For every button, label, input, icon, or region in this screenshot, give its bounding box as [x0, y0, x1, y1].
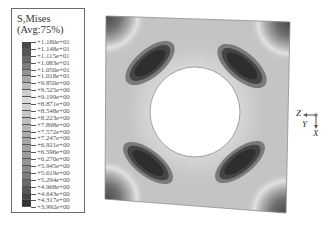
- stress-contour-plot: [95, 5, 300, 223]
- legend-color-segment: [22, 56, 31, 63]
- axis-label-y: Y: [302, 119, 307, 129]
- legend-tick-mark: [31, 159, 36, 160]
- legend-tick-mark: [31, 152, 36, 153]
- legend-color-segment: [22, 125, 31, 132]
- axis-label-x: X: [313, 128, 319, 138]
- legend-tick-mark: [31, 90, 36, 91]
- legend-tick-mark: [31, 83, 36, 84]
- legend-tick-mark: [31, 56, 36, 57]
- central-hole: [150, 67, 240, 157]
- axis-triad: Z Y X: [296, 104, 330, 140]
- legend-tick-mark: [31, 42, 36, 43]
- legend-color-segment: [22, 152, 31, 159]
- legend-tick-mark: [31, 118, 36, 119]
- plate: [95, 5, 300, 223]
- legend-tick-mark: [31, 104, 36, 105]
- legend-color-segment: [22, 166, 31, 173]
- legend-color-segment: [22, 159, 31, 166]
- legend-tick-mark: [31, 76, 36, 77]
- legend-color-segment: [22, 49, 31, 56]
- legend-color-segment: [22, 97, 31, 104]
- legend-color-segment: [22, 180, 31, 187]
- legend-color-segment: [22, 194, 31, 201]
- legend-tick-mark: [31, 180, 36, 181]
- legend-tick-mark: [31, 145, 36, 146]
- legend-color-segment: [22, 90, 31, 97]
- legend-averaging: (Avg:75%): [17, 24, 63, 35]
- legend-color-bar: [22, 42, 31, 207]
- legend-color-segment: [22, 83, 31, 90]
- legend-color-segment: [22, 145, 31, 152]
- legend-tick-mark: [31, 63, 36, 64]
- model-viewport[interactable]: [95, 5, 300, 223]
- legend-tick-mark: [31, 132, 36, 133]
- legend-color-segment: [22, 138, 31, 145]
- legend-tick-mark: [31, 173, 36, 174]
- legend-color-segment: [22, 118, 31, 125]
- legend-color-segment: [22, 200, 31, 207]
- legend-color-segment: [22, 173, 31, 180]
- contour-legend: S,Mises (Avg:75%) +1.180e+01+1.148e+01+1…: [11, 8, 85, 213]
- legend-tick-mark: [31, 49, 36, 50]
- legend-tick-mark: [31, 194, 36, 195]
- legend-color-segment: [22, 76, 31, 83]
- legend-color-segment: [22, 132, 31, 139]
- legend-tick-mark: [31, 166, 36, 167]
- legend-color-segment: [22, 42, 31, 49]
- legend-tick-mark: [31, 97, 36, 98]
- legend-tick-mark: [31, 207, 36, 208]
- legend-tick-mark: [31, 200, 36, 201]
- legend-variable: S,Mises: [17, 13, 63, 24]
- legend-tick-mark: [31, 138, 36, 139]
- legend-tick-mark: [31, 70, 36, 71]
- legend-tick-mark: [31, 111, 36, 112]
- legend-color-segment: [22, 63, 31, 70]
- legend-title: S,Mises (Avg:75%): [17, 13, 63, 35]
- legend-color-segment: [22, 111, 31, 118]
- legend-tick-mark: [31, 125, 36, 126]
- legend-color-segment: [22, 70, 31, 77]
- legend-tick-mark: [31, 187, 36, 188]
- legend-color-segment: [22, 104, 31, 111]
- axis-label-z: Z: [296, 108, 301, 118]
- legend-tick-value: +3.992e+00: [37, 203, 70, 211]
- legend-color-segment: [22, 187, 31, 194]
